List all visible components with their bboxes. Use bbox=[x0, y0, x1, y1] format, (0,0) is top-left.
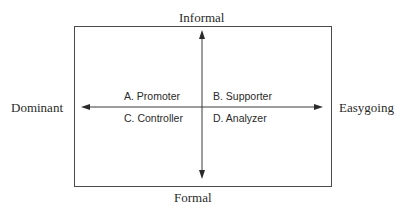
axis-label-bottom: Formal bbox=[174, 191, 212, 204]
arrow-right-icon bbox=[314, 104, 323, 110]
arrow-left-icon bbox=[81, 104, 90, 110]
quadrant-diagram: Informal Formal Dominant Easygoing A. Pr… bbox=[0, 0, 409, 208]
arrow-up-icon bbox=[199, 30, 205, 39]
vertical-axis bbox=[199, 30, 205, 179]
axis-label-left: Dominant bbox=[11, 101, 63, 114]
axis-label-top: Informal bbox=[179, 11, 224, 24]
quadrant-label-analyzer: D. Analyzer bbox=[213, 113, 267, 124]
axis-label-right: Easygoing bbox=[339, 101, 394, 114]
quadrant-label-promoter: A. Promoter bbox=[124, 91, 180, 102]
arrow-down-icon bbox=[199, 170, 205, 179]
quadrant-label-supporter: B. Supporter bbox=[213, 91, 272, 102]
quadrant-label-controller: C. Controller bbox=[124, 113, 183, 124]
